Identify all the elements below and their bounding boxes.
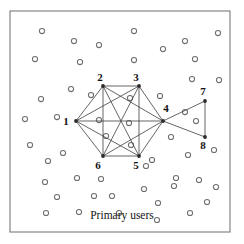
node-label-2: 2 [97, 71, 103, 83]
figure-container: 12345678 Primary users [0, 0, 244, 244]
node-label-4: 4 [163, 102, 169, 114]
secondary-node-3 [137, 84, 141, 88]
node-label-7: 7 [200, 85, 206, 97]
secondary-node-2 [101, 84, 105, 88]
secondary-node-5 [137, 154, 141, 158]
secondary-node-6 [101, 154, 105, 158]
figure-border [10, 11, 230, 232]
node-label-3: 3 [133, 71, 139, 83]
network-topology-diagram: 12345678 Primary users [0, 0, 244, 244]
node-label-5: 5 [133, 159, 139, 171]
secondary-node-4 [161, 119, 165, 123]
node-label-1: 1 [63, 115, 69, 127]
primary-users-caption: Primary users [90, 209, 154, 222]
node-label-6: 6 [95, 159, 101, 171]
node-label-8: 8 [200, 139, 206, 151]
secondary-node-1 [74, 119, 78, 123]
secondary-node-7 [203, 99, 207, 103]
